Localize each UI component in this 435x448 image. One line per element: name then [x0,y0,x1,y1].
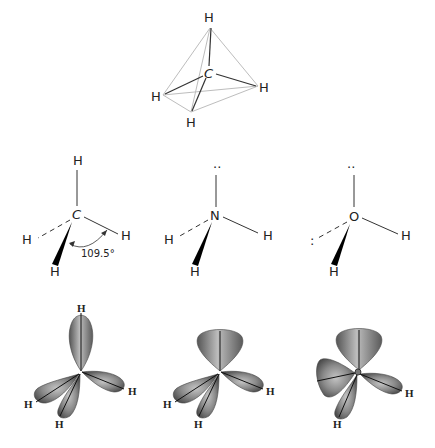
oxygen-nucleus [355,369,361,375]
ammonia-lone-pair: ·· [213,160,221,175]
tetra-c: C [204,66,214,81]
wedge-bond [331,224,350,266]
tetrahedron-diagram: H C H H H [151,10,269,130]
vsepr-figure: H C H H H H C H H H 109.5° ·· N H H H ·· [0,0,435,448]
ammonia-orbital-diagram: H H H [163,330,275,431]
ammonia-h-left: H [164,232,174,247]
methane-c: C [72,207,82,222]
tetra-h-bottom: H [186,115,196,130]
orbital-h-bottom: H [55,418,64,430]
tetra-bond [192,78,206,111]
ammonia-structure: ·· N H H H [164,160,273,279]
water-h-right: H [401,228,411,243]
orbital-h-left: H [24,398,33,410]
bond [362,218,398,234]
water-o: O [349,209,359,224]
ammonia-h-right: H [263,228,273,243]
orbital-h-top: H [77,302,86,314]
tetra-h-right: H [259,80,269,95]
methane-h-right: H [121,228,131,243]
orbital-h-right: H [128,385,137,397]
tetra-edge [210,28,258,86]
orbital-h-right: H [266,385,275,397]
orbital-h-bottom: H [333,418,342,430]
orbital-h-left: H [163,398,172,410]
tetra-bond [209,28,211,66]
dashed-bond [318,222,347,238]
water-lone-pair-left: : [310,233,314,248]
tetra-h-left: H [151,89,161,104]
tetra-edge [163,86,258,95]
dashed-bond [178,220,208,237]
wedge-bond [192,222,212,266]
tetra-edge [163,95,191,112]
water-lone-pair-top: ·· [347,160,355,175]
bond [84,217,118,234]
arrowhead-icon [101,230,107,236]
orbital-h-bottom: H [194,418,203,430]
ammonia-h-bottom: H [190,264,200,279]
methane-structure: H C H H H 109.5° [22,153,131,279]
methane-h-left: H [22,232,32,247]
water-orbital-diagram: H H [317,329,414,431]
bond-angle-label: 109.5° [81,248,115,259]
water-structure: ·· O : H H [310,160,411,279]
tetra-h-top: H [204,10,214,25]
water-h-bottom: H [329,264,339,279]
ammonia-n: N [210,208,220,223]
bond [223,217,258,233]
methane-h-bottom: H [50,264,60,279]
methane-h-top: H [73,153,83,168]
wedge-bond [52,222,72,266]
angle-arc [70,230,107,247]
orbital-h-right: H [405,387,414,399]
methane-orbital-diagram: H H H H [24,302,137,430]
dashed-bond [38,220,70,238]
